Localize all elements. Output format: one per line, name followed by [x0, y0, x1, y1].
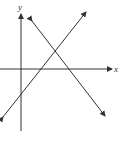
y-axis-label: y: [17, 2, 22, 12]
x-axis-label: x: [113, 64, 118, 74]
coordinate-plane-diagram: x y: [0, 0, 121, 141]
line-positive-slope: [3, 12, 86, 117]
